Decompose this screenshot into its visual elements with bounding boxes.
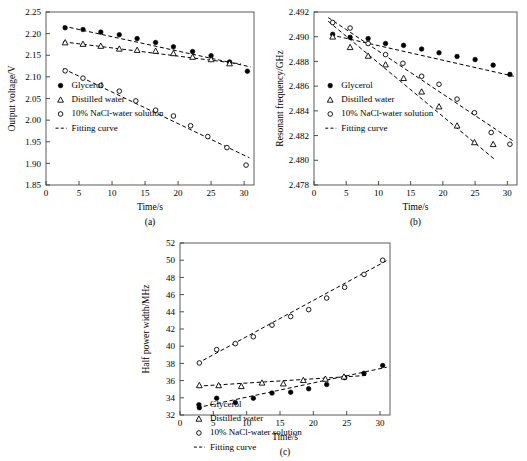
legend-label-1: Distilled water <box>72 94 125 104</box>
data-point-glycerol-10 <box>380 363 385 368</box>
y-tick-label: 40 <box>166 341 176 351</box>
data-point-nacl-6 <box>306 307 311 312</box>
legend-label-2: 10% NaCl-water solution <box>72 108 164 118</box>
data-point-glycerol-0 <box>63 25 68 30</box>
x-tick-label: 15 <box>141 188 151 198</box>
x-tick-label: 25 <box>342 418 352 428</box>
y-tick-label: 2.05 <box>25 94 41 104</box>
data-point-nacl-0 <box>63 69 68 74</box>
data-point-nacl-1 <box>348 26 353 31</box>
data-point-water-4 <box>280 381 286 386</box>
data-point-nacl-legend <box>197 431 202 436</box>
y-axis-title: Output voltage/V <box>7 65 17 131</box>
x-tick-label: 30 <box>240 188 250 198</box>
panel-c-plot: 3234363840424446485052051015202530Time/s… <box>132 231 402 461</box>
y-tick-label: 2.490 <box>289 32 310 42</box>
data-point-nacl-5 <box>419 74 424 79</box>
data-point-nacl-9 <box>362 272 367 277</box>
data-point-water-3 <box>383 62 389 67</box>
panel-b-plot: 2.4782.4802.4822.4842.4862.4882.4902.492… <box>264 0 527 231</box>
data-point-water-9 <box>490 141 496 146</box>
y-tick-label: 34 <box>166 393 176 403</box>
data-point-nacl-0 <box>197 361 202 366</box>
x-tick-label: 20 <box>309 418 319 428</box>
data-point-glycerol-2 <box>99 30 104 35</box>
x-tick-label: 0 <box>178 418 183 428</box>
data-point-water-6 <box>436 104 442 109</box>
data-point-nacl-7 <box>188 123 193 128</box>
data-point-glycerol-3 <box>383 41 388 46</box>
data-point-water-4 <box>134 47 140 52</box>
x-tick-label: 0 <box>44 188 49 198</box>
data-point-nacl-legend <box>58 112 63 117</box>
x-tick-label: 20 <box>438 188 448 198</box>
data-point-glycerol-6 <box>306 386 311 391</box>
x-tick-label: 0 <box>312 188 317 198</box>
data-point-water-5 <box>300 377 306 382</box>
y-tick-label: 2.488 <box>289 57 310 67</box>
data-point-water-7 <box>454 123 460 128</box>
y-tick-label: 2.492 <box>289 7 309 17</box>
data-point-glycerol-9 <box>362 371 367 376</box>
data-point-water-8 <box>472 139 478 144</box>
x-tick-label: 30 <box>503 188 513 198</box>
data-point-nacl-3 <box>251 334 256 339</box>
x-tick-label: 25 <box>471 188 481 198</box>
y-tick-label: 1.95 <box>25 137 41 147</box>
panel-a-plot: 1.851.901.952.002.052.102.152.202.250510… <box>0 0 264 231</box>
panel-caption: (a) <box>145 217 156 228</box>
data-point-glycerol-3 <box>251 396 256 401</box>
fitting-curve-glycerol <box>63 26 251 67</box>
data-point-nacl-4 <box>270 323 275 328</box>
panel-caption: (b) <box>410 217 421 228</box>
data-point-water-2 <box>238 383 244 388</box>
data-point-water-legend <box>58 97 64 102</box>
data-point-glycerol-5 <box>153 40 158 45</box>
legend-marker-2 <box>58 112 63 117</box>
data-point-water-6 <box>171 50 177 55</box>
legend-marker-1 <box>327 97 333 102</box>
data-point-water-5 <box>419 89 425 94</box>
x-axis-title: Time/s <box>137 202 163 212</box>
legend-label-1: Distilled water <box>210 413 263 423</box>
data-point-glycerol-9 <box>491 63 496 68</box>
x-tick-label: 10 <box>108 188 118 198</box>
data-point-nacl-7 <box>324 296 329 301</box>
y-tick-label: 32 <box>166 410 175 420</box>
data-point-glycerol-4 <box>135 36 140 41</box>
legend-label-2: 10% NaCl-water solution <box>210 427 302 437</box>
y-tick-label: 2.484 <box>289 106 310 116</box>
y-tick-label: 2.20 <box>25 29 41 39</box>
data-point-water-4 <box>401 75 407 80</box>
data-point-nacl-0 <box>330 20 335 25</box>
data-point-glycerol-4 <box>401 43 406 48</box>
data-point-glycerol-6 <box>437 50 442 55</box>
legend-label-2: 10% NaCl-water solution <box>341 108 433 118</box>
series-10% <box>197 258 385 365</box>
y-axis-title: Resonant frequency/GHz <box>275 50 285 146</box>
data-point-glycerol-3 <box>117 32 122 37</box>
data-point-nacl-8 <box>472 110 477 115</box>
y-tick-label: 2.15 <box>25 50 41 60</box>
data-point-nacl-3 <box>383 52 388 57</box>
y-tick-label: 2.482 <box>289 131 309 141</box>
y-tick-label: 48 <box>166 273 176 283</box>
data-point-glycerol-10 <box>245 69 250 74</box>
data-point-nacl-6 <box>171 114 176 119</box>
legend-marker-0 <box>58 83 63 88</box>
y-tick-label: 2.00 <box>25 115 41 125</box>
data-point-water-legend <box>327 97 333 102</box>
data-point-nacl-7 <box>455 97 460 102</box>
data-point-nacl-10 <box>380 258 385 263</box>
y-tick-label: 2.10 <box>25 72 41 82</box>
fitting-curve-distilled <box>328 21 496 160</box>
data-point-glycerol-legend <box>197 402 202 407</box>
y-tick-label: 1.85 <box>25 180 41 190</box>
data-point-glycerol-5 <box>419 47 424 52</box>
y-tick-label: 2.25 <box>25 7 41 17</box>
data-point-glycerol-legend <box>328 83 333 88</box>
data-point-glycerol-5 <box>288 390 293 395</box>
y-axis-title: Half power width/MHz <box>141 284 151 373</box>
panel-c: 3234363840424446485052051015202530Time/s… <box>132 231 402 461</box>
x-tick-label: 30 <box>376 418 386 428</box>
